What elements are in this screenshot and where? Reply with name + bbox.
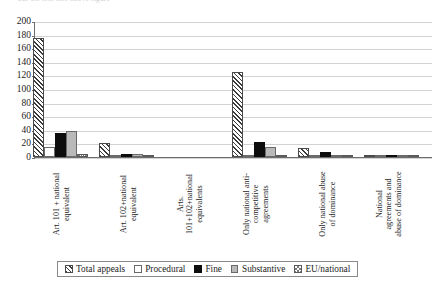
bar: [276, 155, 287, 157]
bar: [320, 152, 331, 157]
bar: [110, 155, 121, 157]
legend-item[interactable]: EU/national: [294, 265, 350, 274]
bar-group: [33, 22, 88, 157]
legend-item-label: Fine: [205, 265, 222, 274]
bar: [298, 148, 309, 157]
bar-group: [165, 22, 220, 157]
bar: [243, 155, 254, 157]
x-axis-category-text: Art. 101 + national equivalent: [52, 161, 71, 247]
x-axis-category-text: Only national anti- competitive agreemen…: [242, 161, 270, 247]
bar: [55, 133, 66, 157]
legend-item-label: EU/national: [305, 265, 350, 274]
y-axis-tick-label: 160: [17, 44, 31, 54]
y-axis-tick-label: 0: [26, 153, 31, 163]
bar-chart-figure: cut-off text line above figure 020406080…: [0, 0, 445, 290]
bar: [331, 155, 342, 157]
legend-item[interactable]: Substantive: [231, 265, 285, 274]
bar: [44, 147, 55, 157]
cross-hatch-swatch: [294, 265, 302, 273]
bar: [33, 38, 44, 157]
clipped-caption-text: cut-off text line above figure: [18, 0, 428, 4]
legend-item[interactable]: Total appeals: [65, 265, 125, 274]
chart-legend: Total appealsProceduralFineSubstantiveEU…: [57, 261, 358, 277]
white-swatch: [134, 265, 142, 273]
x-axis-category-text: Only national abuse of dominance: [318, 161, 337, 247]
black-swatch: [194, 265, 202, 273]
bar: [232, 72, 243, 157]
y-axis-tick-label: 20: [22, 140, 32, 150]
gridline: [35, 158, 432, 159]
bar: [408, 155, 419, 157]
legend-item[interactable]: Fine: [194, 265, 222, 274]
bar: [254, 142, 265, 157]
bar: [309, 155, 320, 157]
bar-group: [298, 22, 353, 157]
bar: [342, 155, 353, 157]
legend-item[interactable]: Procedural: [134, 265, 185, 274]
bar: [386, 155, 397, 157]
gray-swatch: [231, 265, 239, 273]
y-axis-tick-label: 140: [17, 58, 31, 68]
legend-item-label: Substantive: [242, 265, 285, 274]
bar: [77, 154, 88, 157]
bar-group: [364, 22, 419, 157]
bar: [265, 147, 276, 157]
bar: [66, 131, 77, 157]
y-axis-tick-label: 60: [22, 112, 32, 122]
bar: [375, 155, 386, 157]
x-axis-category-text: Arts. 101+102+national equivalents: [176, 161, 204, 247]
diagonal-hatch-swatch: [65, 265, 73, 273]
bar: [143, 155, 154, 157]
bar-group: [232, 22, 287, 157]
bar-group: [99, 22, 154, 157]
bar: [121, 154, 132, 157]
bar: [397, 155, 408, 157]
y-axis-tick-mark: [32, 158, 35, 159]
y-axis-tick-label: 200: [17, 17, 31, 27]
y-axis-tick-label: 80: [22, 99, 32, 109]
legend-item-label: Procedural: [145, 265, 185, 274]
y-axis-tick-label: 40: [22, 126, 32, 136]
plot-area: 020406080100120140160180200: [34, 22, 432, 158]
bar: [132, 154, 143, 157]
y-axis-tick-label: 100: [17, 85, 31, 95]
legend-item-label: Total appeals: [76, 265, 125, 274]
bar: [99, 143, 110, 157]
bar: [364, 155, 375, 157]
bar-groups: [35, 22, 432, 157]
y-axis-tick-label: 180: [17, 31, 31, 41]
x-axis-category-text: Art. 102+national equivalent: [119, 161, 138, 247]
y-axis-tick-label: 120: [17, 72, 31, 82]
x-axis-category-text: National agreements and abuse of dominan…: [375, 161, 403, 247]
